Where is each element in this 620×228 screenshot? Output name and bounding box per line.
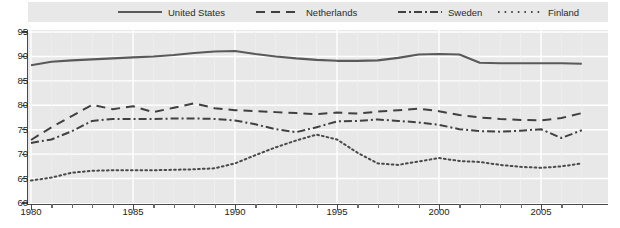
y-axis-tick-label: 90: [6, 50, 28, 61]
x-axis-tick: [296, 204, 297, 208]
x-axis-tick: [174, 204, 175, 208]
y-axis-tick-label: 65: [6, 173, 28, 184]
series-line-sweden: [31, 118, 582, 142]
x-axis-tick-label: 2000: [419, 206, 459, 217]
legend-item-sweden[interactable]: Sweden: [398, 7, 482, 18]
legend-swatch-dashdot-icon: [398, 7, 442, 17]
x-axis-tick: [276, 204, 277, 208]
chart-legend: United States Netherlands Sweden Finland: [28, 2, 608, 22]
x-axis-tick: [72, 204, 73, 208]
y-axis-tick-label: 85: [6, 75, 28, 86]
x-axis-tick-label: 1985: [113, 206, 153, 217]
series-line-finland: [31, 135, 582, 181]
legend-item-finland[interactable]: Finland: [498, 7, 579, 18]
x-axis-tick: [500, 204, 501, 208]
legend-label: Netherlands: [306, 7, 357, 18]
x-axis-tick: [255, 204, 256, 208]
x-axis-tick: [357, 204, 358, 208]
y-axis-tick-label: 95: [6, 26, 28, 37]
legend-swatch-solid-icon: [118, 7, 162, 17]
legend-item-netherlands[interactable]: Netherlands: [256, 7, 357, 18]
y-axis-tick-label: 70: [6, 148, 28, 159]
legend-label: Finland: [548, 7, 579, 18]
plot-svg: [28, 30, 608, 203]
plot-area: [28, 30, 608, 203]
x-axis-tick: [398, 204, 399, 208]
x-axis-tick-label: 1980: [11, 206, 51, 217]
x-axis-tick-label: 2005: [521, 206, 561, 217]
x-axis-tick: [378, 204, 379, 208]
legend-label: Sweden: [448, 7, 482, 18]
x-axis-tick: [459, 204, 460, 208]
x-axis-tick: [582, 204, 583, 208]
series-line-netherlands: [31, 103, 582, 140]
legend-label: United States: [168, 7, 225, 18]
legend-item-united-states[interactable]: United States: [118, 7, 225, 18]
x-axis-tick: [153, 204, 154, 208]
legend-swatch-dotted-icon: [498, 7, 542, 17]
y-axis-tick-label: 80: [6, 99, 28, 110]
y-axis-tick-label: 75: [6, 124, 28, 135]
x-axis-tick: [561, 204, 562, 208]
x-axis-tick-label: 1990: [215, 206, 255, 217]
x-axis-tick: [194, 204, 195, 208]
legend-swatch-dashed-icon: [256, 7, 300, 17]
x-axis-tick: [51, 204, 52, 208]
x-axis-tick: [92, 204, 93, 208]
line-chart: United States Netherlands Sweden Finland…: [0, 0, 620, 228]
x-axis-tick-label: 1995: [317, 206, 357, 217]
x-axis-tick: [480, 204, 481, 208]
series-line-united-states: [31, 51, 582, 65]
